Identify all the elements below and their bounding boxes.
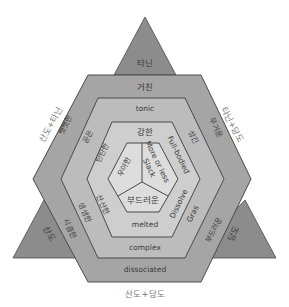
outside-label-bottom: 산도+당도 [125, 289, 164, 299]
ring3-top-label: 강한 [137, 127, 153, 137]
ring3-bottom-label: melted [132, 220, 159, 229]
core-bottom-label: 부드러운 [127, 195, 159, 205]
wine-taste-hexagon-diagram: 타닌 산도 당도 산도+타닌 타닌+당도 산도+당도 거친 뻣뻣한 무거운 시큼… [0, 0, 289, 307]
ring1-top-label: 거친 [137, 82, 153, 92]
ring2-top-label: tonic [136, 104, 155, 113]
triangle-top-label: 타닌 [137, 58, 153, 68]
ring1-bottom-label: dissociated [124, 265, 167, 274]
ring2-bottom-label: complex [129, 243, 161, 252]
